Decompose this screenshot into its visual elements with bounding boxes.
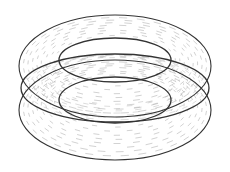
outer-upper-ellipse xyxy=(19,15,211,117)
outer-lower-ellipse xyxy=(19,60,211,160)
equator-lens-ellipse xyxy=(21,54,209,122)
figure-caption xyxy=(20,160,210,170)
torus-vector-field-diagram xyxy=(0,0,230,172)
inner-lower-ellipse xyxy=(59,77,171,123)
